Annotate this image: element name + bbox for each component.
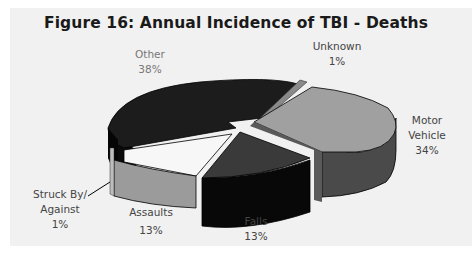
label-falls-pct: 13% — [236, 229, 276, 244]
label-motor-line2: Vehicle — [400, 128, 454, 143]
label-other-name: Other — [120, 47, 180, 62]
slice-struck-by — [110, 148, 114, 196]
label-falls-name: Falls — [236, 214, 276, 229]
label-struck-line1: Struck By/ — [30, 187, 90, 202]
struck-by-leader-line — [88, 182, 110, 196]
label-assaults-pct: 13% — [124, 221, 178, 239]
label-motor-pct: 34% — [400, 143, 454, 158]
label-assaults: Assaults 13% — [124, 203, 178, 239]
label-unknown-name: Unknown — [305, 39, 369, 54]
label-other-pct: 38% — [120, 62, 180, 77]
label-motor-line1: Motor — [400, 113, 454, 128]
label-struck-line2: Against — [30, 202, 90, 217]
label-struck-by: Struck By/ Against 1% — [30, 187, 90, 232]
label-unknown-pct: 1% — [305, 54, 369, 69]
label-motor-vehicle: Motor Vehicle 34% — [400, 113, 454, 158]
label-falls: Falls 13% — [236, 214, 276, 244]
label-unknown: Unknown 1% — [305, 39, 369, 69]
label-other: Other 38% — [120, 47, 180, 77]
label-assaults-name: Assaults — [124, 203, 178, 221]
label-struck-pct: 1% — [30, 217, 90, 232]
